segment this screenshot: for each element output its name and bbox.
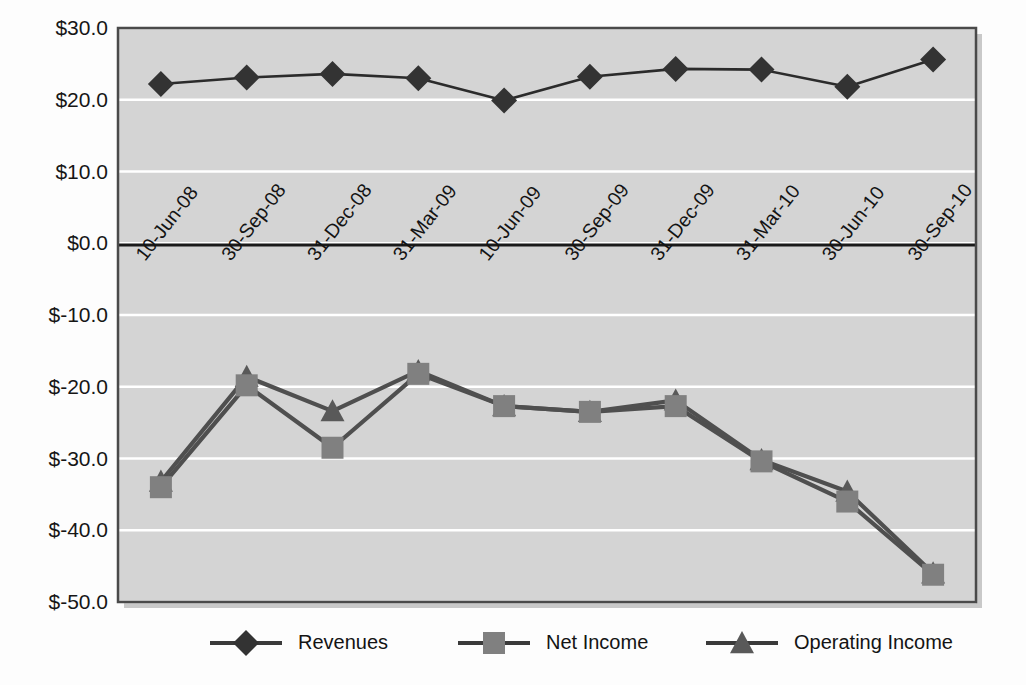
y-axis-tick-label: $-40.0 [48,518,108,541]
chart-legend: RevenuesNet IncomeOperating Income [210,630,953,656]
data-point-marker [579,401,601,423]
data-point-marker [836,491,858,513]
legend-label: Operating Income [794,631,953,653]
y-axis-tick-label: $-20.0 [48,375,108,398]
y-axis-tick-label: $-30.0 [48,447,108,470]
y-axis-tick-label: $30.0 [55,16,108,39]
data-point-marker [751,450,773,472]
y-axis-tick-label: $0.0 [67,231,108,254]
y-axis-tick-label: $10.0 [55,160,108,183]
y-axis-tick-labels: $30.0$20.0$10.0$0.0$-10.0$-20.0$-30.0$-4… [48,16,108,613]
y-axis-tick-label: $20.0 [55,88,108,111]
legend-marker-square-icon [483,632,505,654]
data-point-marker [322,437,344,459]
data-point-marker [407,363,429,385]
data-point-marker [150,476,172,498]
legend-label: Net Income [546,631,648,653]
chart-container: $30.0$20.0$10.0$0.0$-10.0$-20.0$-30.0$-4… [0,0,1026,685]
legend-marker-diamond-icon [233,630,259,656]
y-axis-tick-label: $-10.0 [48,303,108,326]
legend-label: Revenues [298,631,388,653]
data-point-marker [922,564,944,586]
data-point-marker [493,395,515,417]
y-axis-tick-label: $-50.0 [48,590,108,613]
financial-line-chart: $30.0$20.0$10.0$0.0$-10.0$-20.0$-30.0$-4… [0,0,1026,685]
data-point-marker [665,395,687,417]
data-point-marker [236,374,258,396]
